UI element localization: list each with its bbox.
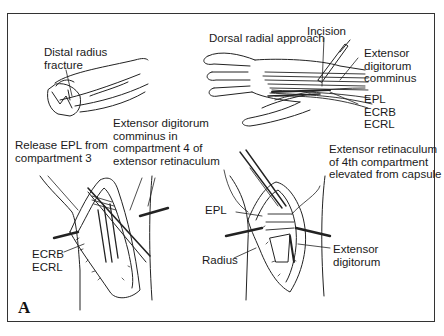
label-extensor-digitorum: Extensor digitorum bbox=[333, 243, 380, 268]
hand-dorsal-view-drawing bbox=[204, 40, 372, 126]
label-epl: EPL bbox=[205, 204, 227, 217]
label-epl-ecrb-ecrl: EPL ECRB ECRL bbox=[364, 93, 396, 131]
label-release-epl: Release EPL from compartment 3 bbox=[15, 139, 108, 164]
label-extensor-retinaculum-elevated: Extensor retinaculum of 4th compartment … bbox=[329, 143, 442, 181]
label-edc-compartment-4: Extensor digitorum comminus in compartme… bbox=[113, 117, 220, 167]
operative-field-right-drawing bbox=[224, 150, 330, 300]
operative-field-left-drawing bbox=[40, 176, 168, 310]
label-extensor-digitorum-comminus: Extensor digitorum comminus bbox=[364, 47, 416, 85]
label-ecrb-ecrl: ECRB ECRL bbox=[32, 248, 64, 273]
label-radius: Radius bbox=[202, 254, 238, 267]
label-incision: Incision bbox=[307, 25, 346, 38]
panel-letter: A bbox=[18, 298, 30, 318]
label-distal-radius-fracture: Distal radius fracture bbox=[44, 46, 107, 71]
